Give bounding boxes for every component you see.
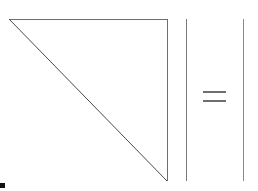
geometry-figure — [0, 0, 258, 191]
right-triangle-group — [9, 19, 167, 181]
corner-marker — [0, 183, 5, 188]
diagram-canvas: Right triangle, vertical line, equals si… — [0, 0, 258, 191]
equals-sign-icon — [203, 92, 226, 101]
triangle-hypotenuse — [9, 19, 167, 181]
